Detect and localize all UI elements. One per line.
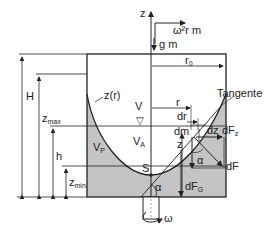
dz-label: dz [207,124,219,136]
h-label: h [56,150,62,162]
tangent-label: Tangente [217,87,262,99]
S-label: S [142,162,149,174]
vertex-point-S [149,173,153,177]
diagram-canvas: z ω²r m g m r0 H zmax h zmin z(r) V ▽ VP… [0,0,278,243]
r0-label: r0 [185,54,193,67]
centrifugal-label: ω²r m [173,24,201,36]
dr-label: dr [177,110,187,122]
zmin-label: zmin [69,176,86,189]
VA-label: VA [133,135,145,148]
dm-label: dm [174,125,189,137]
dF-label: dF [226,160,239,172]
z-axis-label: z [140,7,146,19]
alpha-upper-label: α [197,154,204,166]
zmax-label: zmax [42,112,61,125]
dFz-label: dFz [222,124,239,137]
alpha-lower-label: α [155,181,162,193]
V-label: V [135,100,143,112]
gravity-label: g m [159,38,177,50]
omega-label: ω [164,212,173,224]
r-label: r [176,96,180,108]
z-local-label: z [177,138,183,150]
water-level-symbol: ▽ [136,115,144,126]
surface-label: z(r) [104,89,121,101]
H-label: H [26,90,34,102]
